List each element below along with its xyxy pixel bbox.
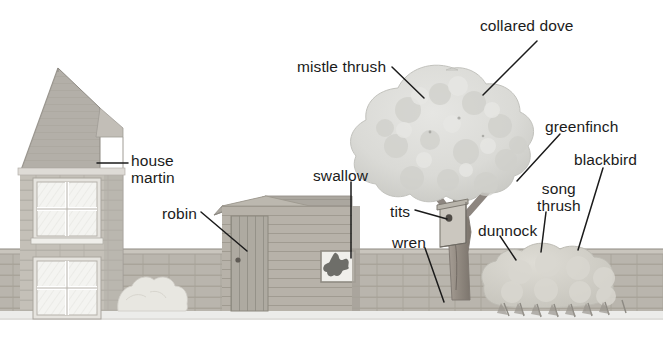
house-window-upper [31,178,103,244]
label-dunnock: dunnock [478,222,537,239]
label-collared-dove: collared dove [480,17,574,34]
label-wren: wren [392,234,426,251]
shed-window [321,251,355,282]
label-house-martin: house martin [131,152,175,186]
label-greenfinch: greenfinch [545,118,618,135]
label-swallow: swallow [313,167,368,184]
collared-dove-leader [483,41,537,95]
label-robin: robin [162,205,197,222]
house [18,68,125,319]
label-mistle-thrush: mistle thrush [297,58,386,75]
nest-box [437,199,468,247]
illustration-canvas: house martin mistle thrush collared dove… [0,0,663,337]
label-tits: tits [390,203,410,220]
shed [214,196,360,311]
label-blackbird: blackbird [574,151,637,168]
blackbird-leader [578,168,603,250]
label-song-thrush: song thrush [537,180,581,214]
house-window-lower [33,257,101,319]
